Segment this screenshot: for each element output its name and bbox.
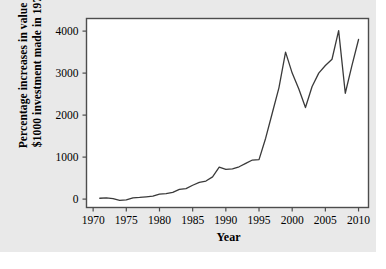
y-tick-label: 2000 — [56, 109, 79, 121]
y-tick-label: 3000 — [56, 67, 79, 79]
x-tick-label: 2005 — [314, 214, 337, 226]
x-axis-ticks: 197019751980198519901995200020052010 — [82, 208, 371, 226]
plot-frame — [87, 19, 369, 208]
x-tick-label: 1980 — [148, 214, 171, 226]
figure-right-margin — [376, 0, 386, 269]
chart-figure: Percentage increases in value of $1000 i… — [0, 0, 386, 269]
y-tick-label: 4000 — [56, 25, 79, 37]
y-tick-label: 1000 — [56, 151, 79, 163]
x-tick-label: 1975 — [115, 214, 138, 226]
x-tick-label: 1990 — [214, 214, 237, 226]
y-axis-ticks: 01000200030004000 — [56, 25, 87, 205]
y-tick-label: 0 — [73, 193, 79, 205]
x-tick-label: 2010 — [347, 214, 370, 226]
x-tick-label: 1970 — [82, 214, 105, 226]
x-axis-label: Year — [86, 230, 371, 245]
x-tick-label: 2000 — [281, 214, 304, 226]
x-tick-label: 1995 — [248, 214, 271, 226]
figure-bottom-margin — [0, 252, 386, 269]
x-tick-label: 1985 — [181, 214, 204, 226]
line-chart-plot: 01000200030004000 1970197519801985199019… — [0, 0, 386, 269]
